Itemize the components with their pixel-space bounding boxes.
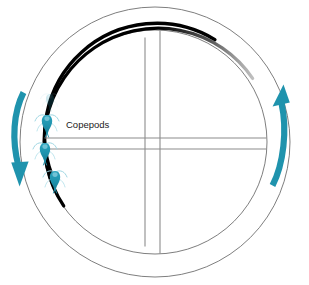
copepod-icon [33, 143, 57, 165]
outer-tank-wall [20, 7, 290, 277]
copepod-group [33, 94, 67, 193]
right-arrowhead-icon [273, 85, 290, 107]
diagram-canvas: Copepods [0, 0, 309, 285]
copepod-icon [41, 94, 60, 111]
dark-accumulation-arc-core [45, 23, 215, 183]
figure-root: Copepods [0, 0, 309, 285]
dark-accumulation-arc [44, 28, 252, 206]
copepod-icon [43, 171, 67, 193]
cross-grid-lines [45, 31, 267, 254]
copepod-icon [35, 115, 59, 137]
copepods-label: Copepods [66, 119, 110, 130]
